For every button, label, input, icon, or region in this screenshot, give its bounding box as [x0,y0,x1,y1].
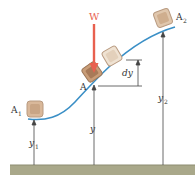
weight-arrow [90,24,99,73]
y1-subscript: 1 [35,143,39,150]
y2-label: y [157,93,164,103]
point-a2-subscript: 2 [183,17,187,24]
y-arrowhead-icon [92,85,96,90]
y-label: y [89,124,96,134]
block-intermediate [101,45,123,67]
y1-label: y [28,138,35,148]
point-a-label: A [79,82,87,92]
point-a1-label: A [10,105,18,115]
y1-arrowhead-icon [32,120,36,125]
y2-subscript: 2 [164,98,168,105]
block-a1 [27,101,43,117]
dy-label: dy [122,68,134,78]
point-a1-subscript: 1 [18,110,22,117]
work-diagram: W A A 1 A 2 dy y y 1 y 2 [0,0,195,185]
y2-arrowhead-icon [161,32,165,37]
ground [10,165,195,175]
weight-label: W [89,11,100,22]
point-a2-label: A [175,12,183,22]
dy-bracket [98,60,142,86]
block-a2 [153,8,174,29]
